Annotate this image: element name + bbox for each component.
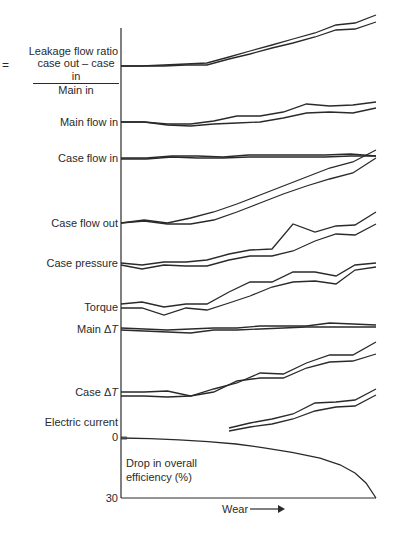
case-t-upper-line xyxy=(121,342,376,396)
leakage-flow-ratio-lower-line xyxy=(121,22,376,66)
case-flow-out-upper-line xyxy=(121,150,376,223)
case-delta-t-label: Case ΔT xyxy=(8,386,118,399)
efficiency-label-line1: Drop in overall xyxy=(126,457,197,470)
main-delta-t-label: Main ΔT xyxy=(8,323,118,336)
electric-current-upper-line xyxy=(229,389,376,428)
case-flow-in-label: Case flow in xyxy=(8,152,118,165)
case-pressure-label: Case pressure xyxy=(8,257,118,270)
main-flow-in-lower-line xyxy=(121,108,376,126)
thirty-label: 30 xyxy=(8,492,118,505)
torque-label: Torque xyxy=(8,301,118,314)
t-symbol: T xyxy=(111,386,118,398)
case-pressure-upper-line xyxy=(121,212,376,265)
series-lines xyxy=(121,15,376,498)
case-delta-t-prefix: Case xyxy=(75,386,104,398)
efficiency-label-line2: efficiency (%) xyxy=(126,471,192,484)
wear-label: Wear xyxy=(222,503,248,516)
case-t-lower-line xyxy=(121,354,376,397)
torque-lower-line xyxy=(121,267,376,315)
electric-current-label: Electric current xyxy=(8,416,118,429)
zero-label: 0 xyxy=(8,431,118,444)
case-flow-out-label: Case flow out xyxy=(8,217,118,230)
leakage-numerator: case out – case in xyxy=(33,57,119,84)
leakage-equals: = xyxy=(2,59,9,72)
main-delta-t-prefix: Main xyxy=(77,323,104,335)
torque-upper-line xyxy=(121,263,376,307)
case-flow-out-lower-line xyxy=(121,158,376,224)
t-symbol: T xyxy=(111,323,118,335)
leakage-flow-ratio-upper-line xyxy=(121,15,376,66)
leakage-fraction: case out – case in Main in xyxy=(33,57,119,97)
wear-arrow-icon xyxy=(250,505,285,513)
leakage-denominator: Main in xyxy=(33,84,119,97)
main-flow-in-label: Main flow in xyxy=(8,116,118,129)
